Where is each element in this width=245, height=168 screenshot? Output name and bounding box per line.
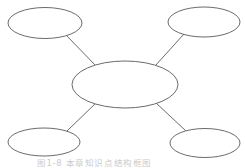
node-center-shape[interactable] <box>72 61 178 108</box>
node-bottom-right-shape[interactable] <box>170 129 240 158</box>
figure-canvas: 图1-8 本章知识点结构框图 <box>0 0 245 168</box>
node-top-left-shape[interactable] <box>8 8 82 39</box>
bubble-diagram <box>0 0 245 168</box>
node-top-right-shape[interactable] <box>168 7 240 37</box>
node-bottom-right[interactable] <box>170 129 240 158</box>
node-bottom-left-shape[interactable] <box>8 128 80 156</box>
node-top-right[interactable] <box>168 7 240 37</box>
node-top-left[interactable] <box>8 8 82 39</box>
node-bottom-left[interactable] <box>8 128 80 156</box>
node-center[interactable] <box>72 61 178 108</box>
